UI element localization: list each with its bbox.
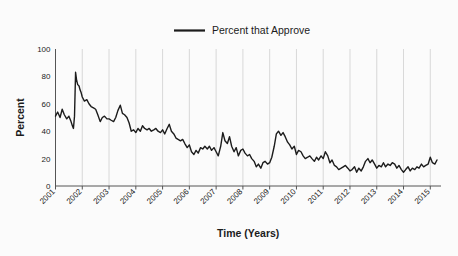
figure-background	[0, 0, 458, 256]
y-tick-label-20: 20	[42, 155, 51, 164]
y-axis-title: Percent	[14, 98, 26, 137]
x-axis-title: Time (Years)	[217, 227, 279, 239]
chart-figure: Percent that Approve 020406080100 200120…	[0, 0, 458, 256]
legend-label-percent-that-approve: Percent that Approve	[212, 24, 310, 36]
y-tick-label-40: 40	[42, 127, 51, 136]
y-tick-label-100: 100	[37, 45, 51, 54]
line-chart-canvas: Percent that Approve 020406080100 200120…	[0, 0, 458, 256]
y-tick-label-80: 80	[42, 72, 51, 81]
y-tick-label-60: 60	[42, 100, 51, 109]
